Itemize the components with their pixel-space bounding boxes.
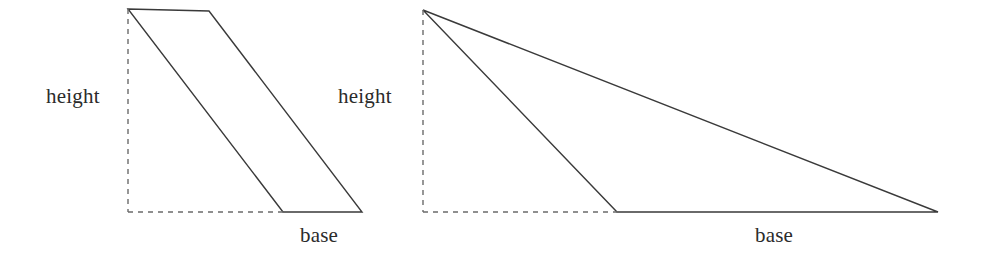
parallelogram-outline xyxy=(128,9,362,212)
geometry-diagram-canvas: height base height base xyxy=(0,0,983,262)
figure-parallelogram xyxy=(128,9,362,212)
parallelogram-base-label: base xyxy=(300,225,338,246)
figure-obtuse-triangle xyxy=(423,10,938,212)
triangle-height-label: height xyxy=(338,86,392,107)
triangle-outline xyxy=(423,10,938,212)
geometry-figures-svg xyxy=(0,0,983,262)
triangle-base-label: base xyxy=(755,225,793,246)
parallelogram-height-label: height xyxy=(46,86,100,107)
